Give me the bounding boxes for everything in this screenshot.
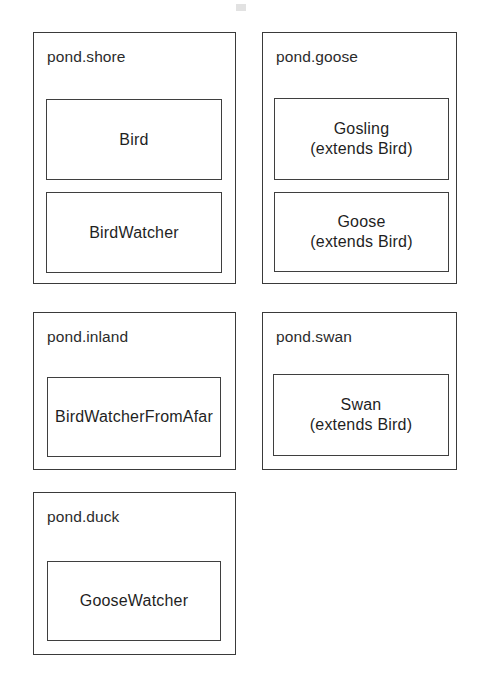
package-title: pond.goose [276, 48, 358, 66]
class-name: Bird [119, 130, 148, 150]
package-title: pond.shore [47, 48, 126, 66]
class-box-Bird[interactable]: Bird [46, 99, 222, 180]
class-name: Goose [337, 212, 385, 232]
class-name: BirdWatcher [89, 223, 179, 243]
package-pond-goose[interactable]: pond.gooseGosling(extends Bird)Goose(ext… [262, 32, 457, 284]
package-pond-inland[interactable]: pond.inlandBirdWatcherFromAfar [33, 312, 236, 470]
class-name: BirdWatcherFromAfar [55, 407, 213, 427]
class-extends-label: (extends Bird) [310, 139, 412, 159]
class-name: GooseWatcher [80, 591, 189, 611]
class-name: Swan [341, 395, 382, 415]
package-title: pond.inland [47, 328, 128, 346]
uml-package-diagram: pond.shoreBirdBirdWatcherpond.gooseGosli… [0, 0, 485, 685]
scan-artifact [236, 4, 246, 11]
package-title: pond.swan [276, 328, 352, 346]
class-extends-label: (extends Bird) [310, 415, 412, 435]
class-box-GooseWatcher[interactable]: GooseWatcher [47, 561, 221, 641]
class-box-BirdWatcherFromAfar[interactable]: BirdWatcherFromAfar [47, 377, 221, 457]
class-box-Gosling[interactable]: Gosling(extends Bird) [274, 98, 449, 180]
class-extends-label: (extends Bird) [310, 232, 412, 252]
package-pond-shore[interactable]: pond.shoreBirdBirdWatcher [33, 32, 236, 284]
class-box-Swan[interactable]: Swan(extends Bird) [273, 374, 449, 456]
class-name: Gosling [334, 119, 390, 139]
package-title: pond.duck [47, 508, 119, 526]
package-pond-duck[interactable]: pond.duckGooseWatcher [33, 492, 236, 655]
class-box-Goose[interactable]: Goose(extends Bird) [274, 192, 449, 272]
class-box-BirdWatcher[interactable]: BirdWatcher [46, 192, 222, 273]
package-pond-swan[interactable]: pond.swanSwan(extends Bird) [262, 312, 457, 470]
